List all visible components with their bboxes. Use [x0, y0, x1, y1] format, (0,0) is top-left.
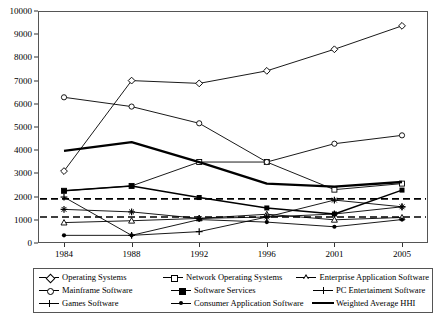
data-point-marker: [197, 195, 202, 200]
data-point-marker: [331, 197, 338, 204]
legend-label: PC Entertaiment Software: [336, 285, 425, 296]
y-tick-label: 0: [28, 239, 33, 248]
y-tick-label: 1000: [14, 215, 32, 224]
series-line: [64, 214, 402, 222]
series-line: [64, 142, 402, 187]
x-tick-mark: [334, 243, 335, 247]
legend-swatch-icon: [38, 298, 60, 309]
x-tick-label: 1988: [123, 249, 141, 259]
data-point-marker: [332, 225, 336, 229]
legend-swatch-icon: [170, 285, 192, 296]
x-tick-label: 2005: [393, 249, 411, 259]
legend-marker-circle-open-icon: [47, 288, 54, 295]
legend-item[interactable]: Weighted Average HHI: [312, 297, 415, 310]
y-tick-label: 8000: [14, 53, 32, 62]
data-point-marker: [196, 228, 203, 235]
x-tick-label: 2001: [325, 249, 343, 259]
x-tick-mark: [199, 243, 200, 247]
data-point-marker: [130, 233, 134, 237]
data-point-marker: [332, 187, 337, 192]
legend-row: Mainframe SoftwareSoftware ServicesPC En…: [38, 284, 429, 297]
data-point-marker: [265, 220, 269, 224]
data-point-marker: [129, 183, 134, 188]
legend-label: Mainframe Software: [62, 285, 133, 296]
series-line: [64, 186, 402, 214]
series-operating-systems: [61, 22, 406, 174]
legend-marker-triangle-open-icon: [303, 274, 309, 279]
series-consumer-application-software: [62, 217, 404, 237]
y-axis: 0100020003000400050006000700080009000100…: [0, 0, 38, 254]
data-point-marker: [128, 77, 135, 84]
data-point-marker: [62, 233, 66, 237]
legend-swatch-icon: [38, 285, 60, 296]
data-point-marker: [61, 168, 68, 175]
data-point-marker: [128, 209, 135, 216]
legend-item[interactable]: Operating Systems: [38, 271, 162, 284]
x-axis: 198419881992199620012005: [38, 243, 428, 265]
data-point-marker: [62, 188, 67, 193]
plot-series-layer: [38, 11, 428, 243]
legend-item[interactable]: PC Entertaiment Software: [312, 284, 425, 297]
x-tick-label: 1984: [55, 249, 73, 259]
data-point-marker: [332, 141, 337, 146]
legend-marker-square-open-icon: [171, 275, 178, 282]
legend-swatch-icon: [162, 272, 184, 283]
series-weighted-average-hhi: [64, 142, 402, 187]
data-point-marker: [399, 22, 406, 29]
x-tick-mark: [267, 243, 268, 247]
y-tick-label: 9000: [14, 30, 32, 39]
y-tick-label: 4000: [14, 146, 32, 155]
legend-label: Consumer Application Software: [194, 298, 304, 309]
series-network-operating-systems: [62, 160, 405, 194]
legend-label: Games Software: [62, 298, 118, 309]
legend-item[interactable]: Consumer Application Software: [170, 297, 312, 310]
legend-marker-plus-icon: [46, 300, 53, 307]
legend-label: Operating Systems: [62, 272, 126, 283]
y-tick-label: 6000: [14, 99, 32, 108]
data-point-marker: [61, 206, 68, 213]
data-point-marker: [264, 205, 269, 210]
x-tick-label: 1996: [258, 249, 276, 259]
legend-item[interactable]: Network Operating Systems: [162, 271, 295, 284]
legend-label: Software Services: [194, 285, 256, 296]
legend-item[interactable]: Enterprise Application Software: [295, 271, 429, 284]
x-tick-mark: [402, 243, 403, 247]
legend-label: Enterprise Application Software: [319, 272, 429, 283]
data-point-marker: [264, 159, 269, 164]
data-point-marker: [197, 217, 201, 221]
y-tick-label: 7000: [14, 76, 32, 85]
legend-swatch-icon: [38, 272, 60, 283]
legend-row: Games SoftwareConsumer Application Softw…: [38, 297, 429, 310]
plot-area: [38, 11, 428, 243]
y-tick-label: 5000: [14, 123, 32, 132]
legend-item[interactable]: Software Services: [170, 284, 312, 297]
legend-marker-star-icon: [320, 287, 327, 294]
data-point-marker: [129, 104, 134, 109]
data-point-marker: [331, 46, 338, 53]
series-pc-entertaiment-software: [61, 197, 406, 222]
legend-marker-diamond-open-icon: [45, 273, 55, 283]
chart-root: 0100020003000400050006000700080009000100…: [0, 0, 446, 323]
legend-swatch-icon: [295, 272, 317, 283]
y-tick-label: 3000: [14, 169, 32, 178]
x-tick-mark: [64, 243, 65, 247]
legend-label: Weighted Average HHI: [336, 298, 415, 309]
legend-item[interactable]: Mainframe Software: [38, 284, 170, 297]
y-tick-label: 10000: [10, 7, 33, 16]
legend-marker-square-filled-icon: [179, 288, 186, 295]
legend-marker-dot-icon: [179, 301, 183, 305]
data-point-marker: [61, 95, 66, 100]
data-point-marker: [263, 67, 270, 74]
legend-item[interactable]: Games Software: [38, 297, 170, 310]
chart-legend: Operating SystemsNetwork Operating Syste…: [33, 268, 433, 313]
legend-row: Operating SystemsNetwork Operating Syste…: [38, 271, 429, 284]
series-line: [64, 97, 402, 162]
data-point-marker: [399, 133, 404, 138]
data-point-marker: [400, 188, 405, 193]
series-line: [64, 26, 402, 171]
x-tick-mark: [132, 243, 133, 247]
series-line: [64, 220, 402, 236]
x-tick-label: 1992: [190, 249, 208, 259]
data-point-marker: [400, 217, 404, 221]
legend-swatch-icon: [312, 298, 334, 309]
